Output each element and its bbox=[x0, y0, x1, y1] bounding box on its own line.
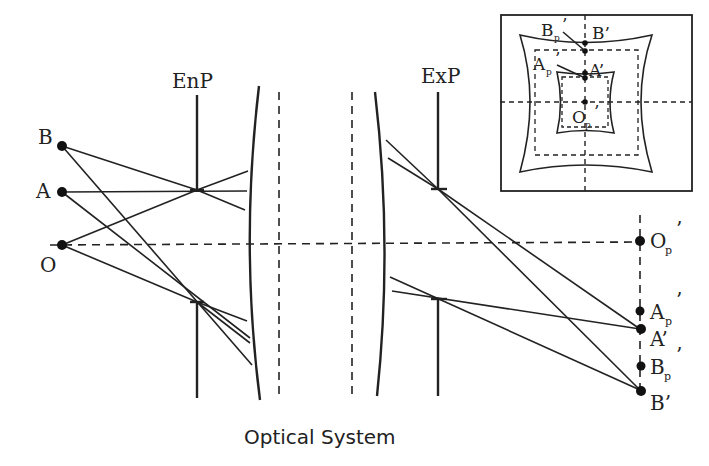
label-enp: EnP bbox=[172, 69, 213, 93]
label-b-prime: B’ bbox=[650, 391, 671, 415]
image-point-b bbox=[636, 386, 646, 396]
label-a-prime: A’ bbox=[649, 327, 668, 351]
svg-text:B: B bbox=[541, 20, 554, 40]
svg-text:O: O bbox=[650, 229, 666, 253]
svg-text:A: A bbox=[649, 300, 665, 324]
label-o: O bbox=[40, 253, 56, 277]
svg-text:p: p bbox=[665, 244, 672, 257]
svg-text:B’: B’ bbox=[592, 23, 610, 43]
label-exp: ExP bbox=[421, 64, 460, 88]
svg-text:A’: A’ bbox=[588, 60, 604, 80]
label-a: A bbox=[35, 179, 51, 203]
svg-text:’: ’ bbox=[555, 48, 560, 68]
object-side-rays bbox=[62, 146, 252, 365]
image-point-bp bbox=[637, 362, 646, 371]
image-point-a bbox=[636, 324, 646, 334]
diagram-canvas: B A O EnP ExP O p ’ A p ’ A’ B p ’ B’ Op… bbox=[0, 0, 709, 466]
svg-text:’: ’ bbox=[594, 101, 599, 121]
object-point-b bbox=[57, 141, 67, 151]
svg-text:A: A bbox=[532, 54, 546, 74]
svg-text:’: ’ bbox=[676, 343, 682, 367]
svg-text:’: ’ bbox=[676, 217, 682, 241]
image-point-op bbox=[635, 236, 645, 246]
image-point-ap bbox=[636, 307, 645, 316]
optical-axis bbox=[50, 242, 640, 245]
svg-text:B: B bbox=[650, 355, 665, 379]
svg-text:p: p bbox=[546, 67, 552, 77]
lens-surface-front bbox=[250, 86, 260, 400]
label-ap: A p ’ bbox=[649, 288, 682, 328]
svg-text:p: p bbox=[554, 33, 560, 43]
svg-text:p: p bbox=[585, 120, 591, 130]
svg-text:O: O bbox=[572, 107, 586, 127]
object-point-o bbox=[57, 240, 67, 250]
label-b: B bbox=[38, 125, 53, 149]
caption-optical-system: Optical System bbox=[244, 425, 396, 449]
svg-text:p: p bbox=[664, 370, 671, 383]
svg-text:’: ’ bbox=[676, 288, 682, 312]
svg-text:’: ’ bbox=[562, 14, 567, 34]
label-op: O p ’ bbox=[650, 217, 682, 257]
object-point-a bbox=[57, 187, 67, 197]
optical-system-diagram: B A O EnP ExP O p ’ A p ’ A’ B p ’ B’ Op… bbox=[0, 0, 709, 466]
distortion-inset: B p ’ B’ A p ’ A’ O p ’ bbox=[500, 14, 692, 191]
